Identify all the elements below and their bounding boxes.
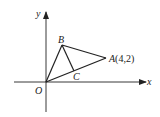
x-axis-label: x <box>146 76 152 87</box>
segment-BA <box>62 45 106 58</box>
point-B-label: B <box>58 34 64 45</box>
origin-label: O <box>35 85 42 96</box>
point-C-label: C <box>73 71 80 82</box>
point-A-label: A(4,2) <box>108 53 134 65</box>
segment-BC <box>62 45 74 71</box>
y-axis-label: y <box>35 8 41 19</box>
coordinate-diagram: y x O B C A(4,2) <box>0 0 160 117</box>
